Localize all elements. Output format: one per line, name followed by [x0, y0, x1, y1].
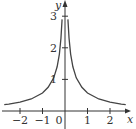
x-tick-label: −1	[34, 114, 50, 127]
x-tick-label: −2	[12, 114, 28, 127]
y-axis-arrow-icon	[63, 0, 68, 7]
y-tick-label: 1	[50, 73, 57, 86]
y-tick-label: 2	[50, 42, 57, 55]
x-tick-label: 0	[56, 114, 63, 127]
curve-right	[68, 19, 126, 104]
curve-left	[4, 19, 62, 104]
x-axis-label: x	[127, 113, 134, 126]
chart: −2−1012123xy	[0, 0, 136, 129]
axes	[2, 0, 131, 129]
x-tick-label: 1	[84, 114, 91, 127]
y-tick-label: 3	[50, 10, 57, 23]
y-axis-label: y	[54, 0, 62, 12]
x-tick-label: 2	[107, 114, 114, 127]
